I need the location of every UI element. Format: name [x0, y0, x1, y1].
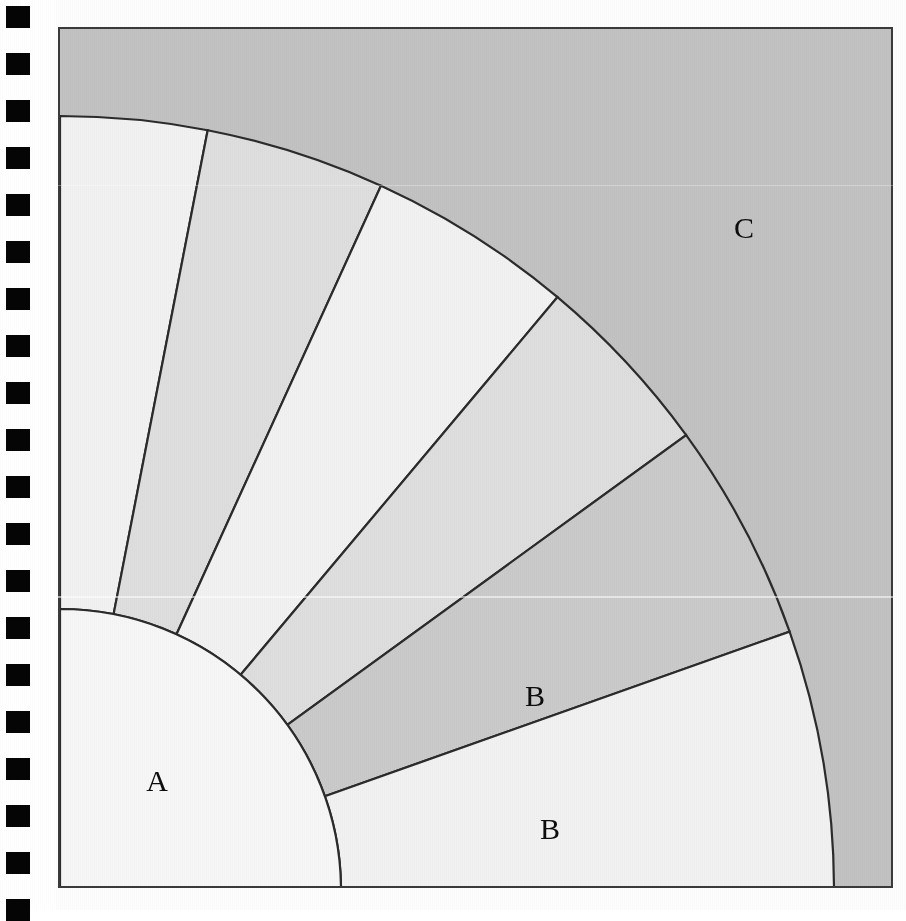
- figure-frame: ABBC: [58, 27, 893, 888]
- binding-hole: [6, 523, 30, 545]
- binding-hole: [6, 100, 30, 122]
- binding-hole: [6, 147, 30, 169]
- radial-sector-diagram: [58, 27, 893, 888]
- binding-hole: [6, 288, 30, 310]
- binding-hole: [6, 6, 30, 28]
- spiral-binding: [0, 0, 56, 910]
- binding-hole: [6, 852, 30, 874]
- binding-hole: [6, 711, 30, 733]
- binding-hole: [6, 382, 30, 404]
- binding-hole: [6, 758, 30, 780]
- binding-hole: [6, 241, 30, 263]
- label-b2: B: [540, 814, 560, 844]
- binding-hole: [6, 429, 30, 451]
- binding-hole: [6, 194, 30, 216]
- label-c: C: [734, 213, 754, 243]
- label-a: A: [146, 766, 168, 796]
- binding-hole: [6, 664, 30, 686]
- binding-hole: [6, 899, 30, 921]
- binding-hole: [6, 476, 30, 498]
- binding-hole: [6, 805, 30, 827]
- binding-hole: [6, 335, 30, 357]
- binding-hole: [6, 570, 30, 592]
- label-b1: B: [525, 681, 545, 711]
- binding-hole: [6, 53, 30, 75]
- binding-hole: [6, 617, 30, 639]
